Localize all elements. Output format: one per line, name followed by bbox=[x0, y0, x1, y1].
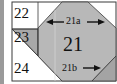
label-21: 21 bbox=[63, 34, 83, 54]
label-21a: 21a bbox=[66, 16, 80, 26]
label-23: 23 bbox=[14, 30, 29, 45]
label-21b: 21b bbox=[62, 63, 77, 73]
label-22: 22 bbox=[14, 6, 29, 21]
label-24: 24 bbox=[14, 61, 29, 76]
